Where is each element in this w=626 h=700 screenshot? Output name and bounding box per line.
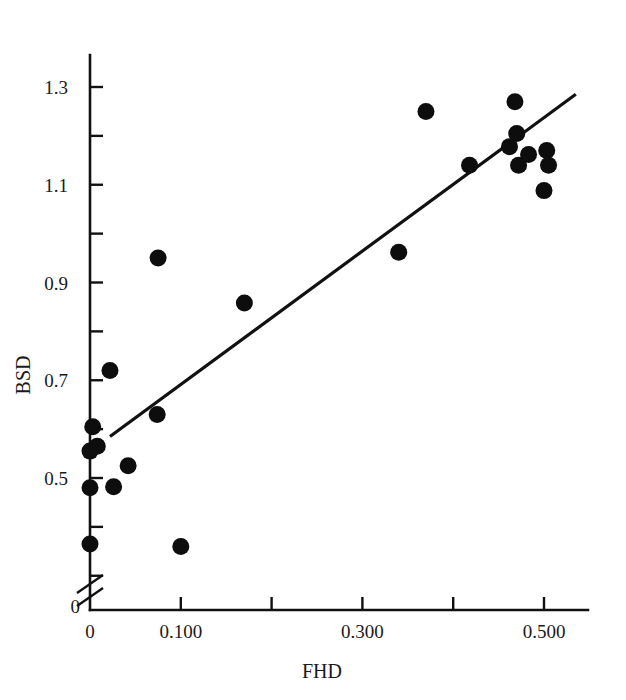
data-point bbox=[89, 438, 106, 455]
data-point bbox=[101, 362, 118, 379]
y-axis-tick-label: 0.7 bbox=[44, 370, 68, 391]
data-point bbox=[84, 418, 101, 435]
y-axis-origin-label: 0 bbox=[71, 596, 81, 617]
y-axis-title: BSD bbox=[12, 356, 34, 395]
y-axis-tick-label: 1.1 bbox=[44, 175, 68, 196]
data-point bbox=[390, 244, 407, 261]
x-axis-tick-label: 0 bbox=[85, 621, 95, 642]
data-point bbox=[506, 93, 523, 110]
data-point bbox=[508, 125, 525, 142]
plot-canvas: 0.50.70.91.11.3000.1000.3000.500 BSD FHD bbox=[0, 0, 626, 700]
data-point bbox=[538, 142, 555, 159]
data-point bbox=[417, 103, 434, 120]
x-axis-title: FHD bbox=[302, 660, 342, 682]
data-point bbox=[105, 478, 122, 495]
data-point bbox=[520, 146, 537, 163]
data-point bbox=[120, 457, 137, 474]
x-axis-tick-label: 0.300 bbox=[341, 621, 384, 642]
data-point bbox=[82, 479, 99, 496]
y-axis-tick-label: 0.9 bbox=[44, 273, 68, 294]
data-point bbox=[461, 157, 478, 174]
y-axis-tick-label: 1.3 bbox=[44, 77, 68, 98]
tick-labels-group: 0.50.70.91.11.3000.1000.3000.500 bbox=[44, 77, 565, 642]
scatter-plot-figure: 0.50.70.91.11.3000.1000.3000.500 BSD FHD bbox=[0, 0, 626, 700]
y-axis-tick-label: 0.5 bbox=[44, 468, 68, 489]
x-axis-tick-label: 0.500 bbox=[523, 621, 566, 642]
data-point bbox=[149, 406, 166, 423]
data-point bbox=[172, 538, 189, 555]
x-axis-tick-label: 0.100 bbox=[159, 621, 202, 642]
data-point bbox=[82, 535, 99, 552]
data-point bbox=[150, 250, 167, 267]
data-point bbox=[540, 157, 557, 174]
data-point bbox=[236, 295, 253, 312]
data-point bbox=[536, 182, 553, 199]
